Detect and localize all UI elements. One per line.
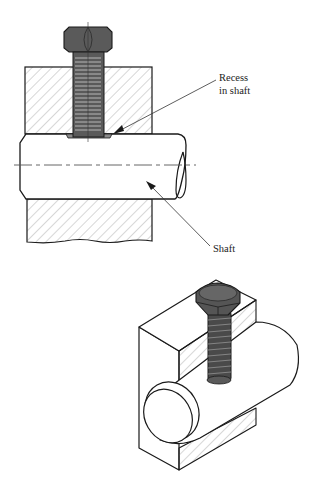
shaft-label: Shaft (213, 243, 235, 256)
bottom-block-section (27, 199, 152, 243)
recess-label-line2: in shaft (219, 85, 250, 98)
bolt-shank-threads (73, 52, 104, 137)
shaft-section (20, 134, 186, 199)
recess-label-line1: Recess (219, 72, 248, 85)
shaft-leader-line (151, 186, 210, 246)
isometric-view (134, 280, 298, 470)
set-screw-diagram (0, 0, 314, 483)
isometric-screw-shank (207, 312, 231, 384)
section-view (14, 22, 216, 246)
